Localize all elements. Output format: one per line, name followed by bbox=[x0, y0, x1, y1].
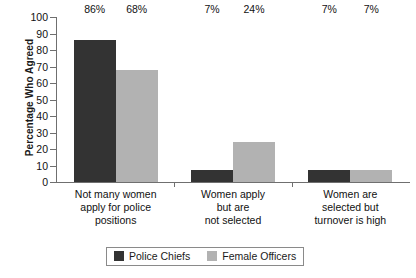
bar-group: 7%24% bbox=[174, 17, 291, 182]
x-axis-category-separator bbox=[292, 182, 293, 187]
category-label-line: apply for police bbox=[57, 201, 174, 214]
legend-item-female-officers: Female Officers bbox=[207, 250, 296, 262]
bar-rect bbox=[74, 40, 116, 182]
y-axis-tick-40: 40 bbox=[4, 111, 48, 121]
legend-label-police-chiefs: Police Chiefs bbox=[129, 250, 190, 262]
bar-value-label: 7% bbox=[322, 4, 337, 15]
y-axis-tick-10: 10 bbox=[4, 161, 48, 171]
bar-group: 86%68% bbox=[57, 17, 174, 182]
legend-swatch-female-officers bbox=[207, 251, 217, 261]
legend-swatch-police-chiefs bbox=[114, 251, 124, 261]
y-axis-tickmark-60 bbox=[50, 83, 56, 84]
y-axis-tick-0: 0 bbox=[4, 177, 48, 187]
x-axis-category-label: Not many womenapply for policepositions bbox=[57, 188, 174, 227]
y-axis-tick-70: 70 bbox=[4, 62, 48, 72]
legend-item-police-chiefs: Police Chiefs bbox=[114, 250, 190, 262]
y-axis-tick-30: 30 bbox=[4, 128, 48, 138]
category-label-line: not selected bbox=[174, 214, 291, 227]
bar-police-chiefs[interactable]: 7% bbox=[308, 17, 350, 182]
legend-label-female-officers: Female Officers bbox=[222, 250, 296, 262]
bar-group-bars: 7%24% bbox=[174, 17, 291, 182]
bar-group: 7%7% bbox=[292, 17, 409, 182]
y-axis-tickmark-20 bbox=[50, 149, 56, 150]
y-axis-tickmark-30 bbox=[50, 133, 56, 134]
y-axis-tickmark-80 bbox=[50, 50, 56, 51]
bar-female-officers[interactable]: 24% bbox=[233, 17, 275, 182]
y-axis-tickmark-40 bbox=[50, 116, 56, 117]
y-axis-tickmark-100 bbox=[50, 17, 56, 18]
y-axis-tickmark-90 bbox=[50, 34, 56, 35]
bar-rect bbox=[308, 170, 350, 182]
y-axis-tick-90: 90 bbox=[4, 29, 48, 39]
bar-female-officers[interactable]: 68% bbox=[116, 17, 158, 182]
category-label-line: Women are bbox=[292, 188, 409, 201]
legend: Police Chiefs Female Officers bbox=[106, 247, 304, 266]
category-label-line: selected but bbox=[292, 201, 409, 214]
y-axis-tickmark-50 bbox=[50, 100, 56, 101]
x-axis-category-label: Women applybut arenot selected bbox=[174, 188, 291, 227]
y-axis-tickmark-10 bbox=[50, 166, 56, 167]
y-axis-tick-labels: 1009080706050403020100 bbox=[0, 0, 48, 278]
category-label-line: Women apply bbox=[174, 188, 291, 201]
bar-police-chiefs[interactable]: 86% bbox=[74, 17, 116, 182]
x-axis-category-label: Women areselected butturnover is high bbox=[292, 188, 409, 227]
bar-rect bbox=[350, 170, 392, 182]
category-label-line: positions bbox=[57, 214, 174, 227]
x-axis-category-separator bbox=[174, 182, 175, 187]
plot-area: 86%68%7%24%7%7% bbox=[57, 17, 409, 182]
bar-value-label: 86% bbox=[84, 4, 105, 15]
bar-rect bbox=[191, 170, 233, 182]
y-axis-tickmark-70 bbox=[50, 67, 56, 68]
bar-value-label: 68% bbox=[126, 4, 147, 15]
category-label-line: but are bbox=[174, 201, 291, 214]
bar-group-bars: 86%68% bbox=[57, 17, 174, 182]
category-label-line: Not many women bbox=[57, 188, 174, 201]
bar-value-label: 7% bbox=[364, 4, 379, 15]
x-axis-line bbox=[56, 182, 410, 183]
y-axis-tick-80: 80 bbox=[4, 45, 48, 55]
y-axis-tick-50: 50 bbox=[4, 95, 48, 105]
y-axis-tick-100: 100 bbox=[4, 12, 48, 22]
y-axis-tick-20: 20 bbox=[4, 144, 48, 154]
y-axis-tick-60: 60 bbox=[4, 78, 48, 88]
bar-rect bbox=[116, 70, 158, 182]
bar-value-label: 7% bbox=[204, 4, 219, 15]
category-label-line: turnover is high bbox=[292, 214, 409, 227]
bar-value-label: 24% bbox=[243, 4, 264, 15]
bar-police-chiefs[interactable]: 7% bbox=[191, 17, 233, 182]
grouped-bar-chart: Percentage Who Agreed 100908070605040302… bbox=[0, 0, 416, 278]
bar-group-bars: 7%7% bbox=[292, 17, 409, 182]
y-axis-tickmark-0 bbox=[50, 182, 56, 183]
bar-female-officers[interactable]: 7% bbox=[350, 17, 392, 182]
bar-rect bbox=[233, 142, 275, 182]
